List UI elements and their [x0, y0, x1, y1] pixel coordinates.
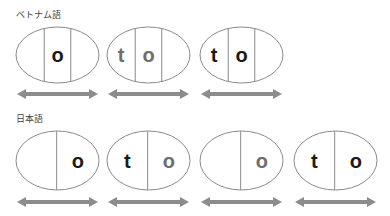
phoneme-letter: o — [163, 150, 175, 172]
syllable-cell: o — [16, 131, 99, 207]
syllable-ellipse — [16, 131, 99, 190]
double-arrow-icon — [108, 89, 189, 99]
syllable-cell: to — [107, 131, 190, 207]
double-arrow-icon — [108, 197, 189, 207]
syllable-cell: to — [294, 131, 377, 207]
syllable-cell: to — [200, 27, 283, 99]
double-arrow-icon — [295, 197, 376, 207]
phoneme-letter: t — [211, 44, 218, 66]
phoneme-letter: o — [142, 44, 154, 66]
syllable-cell: o — [16, 27, 99, 99]
syllable-ellipse — [107, 131, 190, 190]
phoneme-letter: t — [118, 44, 125, 66]
syllable-ellipse — [294, 131, 377, 190]
double-arrow-icon — [17, 89, 98, 99]
phoneme-letter: o — [235, 44, 247, 66]
syllable-cell: o — [200, 131, 283, 207]
phoneme-letter: o — [350, 150, 362, 172]
mora-diagram: ototootooto — [0, 0, 390, 216]
syllable-cell: to — [107, 27, 190, 99]
double-arrow-icon — [201, 197, 282, 207]
phoneme-letter: t — [124, 150, 131, 172]
phoneme-letter: o — [72, 150, 84, 172]
phoneme-letter: o — [51, 44, 63, 66]
syllable-ellipse — [200, 131, 283, 190]
phoneme-letter: o — [256, 150, 268, 172]
double-arrow-icon — [17, 197, 98, 207]
phoneme-letter: t — [311, 150, 318, 172]
double-arrow-icon — [201, 89, 282, 99]
